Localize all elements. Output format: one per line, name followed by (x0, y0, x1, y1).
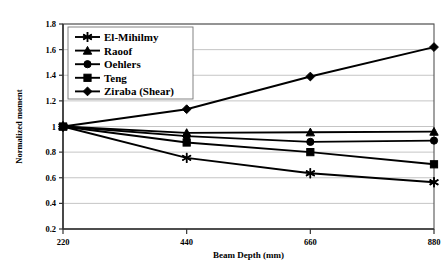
legend-label-raoof: Raoof (104, 45, 132, 57)
y-tick-label: 1.2 (45, 96, 56, 106)
x-tick-label: 220 (57, 237, 70, 247)
marker-teng (430, 161, 437, 168)
y-tick-label: 1.4 (45, 70, 56, 80)
y-tick-label: 1 (52, 122, 56, 132)
y-tick-label: 1.6 (45, 45, 56, 55)
y-tick-label: 0.4 (45, 198, 56, 208)
line-chart: 0.20.40.60.811.21.41.61.8220440660880Bea… (0, 0, 447, 266)
legend-label-ziraba-shear: Ziraba (Shear) (104, 85, 174, 98)
marker-teng (183, 139, 190, 146)
marker-legend-teng (84, 74, 91, 81)
x-tick-label: 660 (304, 237, 317, 247)
marker-oehlers (307, 138, 314, 145)
y-axis-title: Normalized moment (14, 89, 24, 164)
marker-teng (307, 149, 314, 156)
y-tick-label: 0.8 (45, 147, 56, 157)
marker-legend-oehlers (84, 61, 91, 68)
legend-label-teng: Teng (104, 72, 127, 84)
y-tick-label: 1.8 (45, 19, 56, 29)
legend-label-el-mihilmy: El-Mihilmy (104, 31, 159, 43)
x-tick-label: 440 (180, 237, 193, 247)
marker-oehlers (430, 137, 437, 144)
x-tick-label: 880 (428, 237, 441, 247)
legend-label-oehlers: Oehlers (104, 58, 141, 70)
y-tick-label: 0.2 (45, 224, 56, 234)
y-tick-label: 0.6 (45, 173, 56, 183)
chart-container: 0.20.40.60.811.21.41.61.8220440660880Bea… (0, 0, 447, 266)
x-axis-title: Beam Depth (mm) (213, 250, 284, 260)
